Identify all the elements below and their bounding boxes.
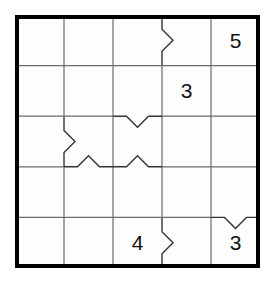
puzzle-container: 5343 (0, 0, 275, 285)
grid-cell[interactable] (211, 116, 260, 167)
grid-cell[interactable] (113, 15, 162, 66)
grid-cell[interactable] (162, 217, 211, 268)
grid-cell[interactable] (113, 116, 162, 167)
grid-cell[interactable] (15, 15, 64, 66)
given-r5c5[interactable]: 3 (211, 217, 260, 268)
grid-cell[interactable] (162, 116, 211, 167)
grid-cell[interactable] (162, 15, 211, 66)
grid-cell[interactable] (162, 167, 211, 218)
grid-cell[interactable] (15, 116, 64, 167)
grid-cell[interactable] (211, 167, 260, 218)
grid-cell[interactable] (211, 66, 260, 117)
grid-cell[interactable] (64, 217, 113, 268)
grid-cell[interactable] (64, 66, 113, 117)
grid-cell[interactable] (64, 116, 113, 167)
grid-cell[interactable] (15, 66, 64, 117)
grid-cell[interactable] (64, 15, 113, 66)
grid-cell[interactable] (15, 217, 64, 268)
given-r2c4[interactable]: 3 (162, 66, 211, 117)
grid-cell[interactable] (15, 167, 64, 218)
grid-cell[interactable] (113, 167, 162, 218)
grid-cell[interactable] (113, 66, 162, 117)
given-r1c5[interactable]: 5 (211, 15, 260, 66)
given-r5c3[interactable]: 4 (113, 217, 162, 268)
puzzle-grid[interactable]: 5343 (15, 15, 260, 268)
grid-cell[interactable] (64, 167, 113, 218)
